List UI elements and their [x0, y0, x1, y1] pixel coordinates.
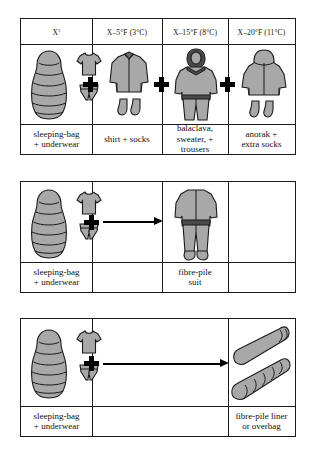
- implies-arrow: [103, 359, 229, 368]
- caption-line: fibre-pile liner: [235, 411, 287, 422]
- plus-operator-2: [154, 77, 169, 92]
- caption-line: + underwear: [34, 277, 80, 288]
- plus-operator-1: [84, 215, 99, 230]
- caption-cell-0: sleeping-bag + underwear: [21, 406, 92, 436]
- degree-symbol: °: [58, 29, 60, 35]
- figure-sheet: X° X–5°F (3°C) X–15°F (8°C) X–20°F (11°C…: [0, 0, 314, 455]
- layer-table-block-3: sleeping-bag + underwear fibre-pile line…: [20, 318, 296, 437]
- header-cell-2: X–15°F (8°C): [162, 19, 228, 45]
- socks-icon: [117, 97, 143, 117]
- plus-operator-1: [84, 356, 99, 371]
- caption-cell-1: shirt + socks: [92, 124, 162, 154]
- implies-arrow: [103, 217, 163, 226]
- caption-cell-2: balaclava, sweater, + trousers: [162, 124, 228, 154]
- caption-line: extra socks: [241, 139, 281, 150]
- anorak-icon: [241, 49, 287, 97]
- header-cell-1: X–5°F (3°C): [92, 19, 162, 45]
- header-cell-0: X°: [21, 19, 92, 45]
- sleeping-bag-icon: [26, 327, 72, 401]
- layer-table-block-1: X° X–5°F (3°C) X–15°F (8°C) X–20°F (11°C…: [20, 18, 296, 155]
- plus-operator-1: [83, 77, 98, 92]
- caption-cell-2: fibre-pile liner or overbag: [228, 406, 295, 436]
- caption-line: sleeping-bag: [34, 267, 80, 278]
- caption-cell-0: sleeping-bag + underwear: [21, 262, 92, 292]
- caption-line: or overbag: [235, 421, 287, 432]
- caption-line: anorak +: [241, 129, 281, 140]
- fibre-pile-suit-icon: [173, 188, 219, 262]
- t-shirt-icon: [76, 190, 102, 216]
- t-shirt-icon: [76, 329, 102, 355]
- caption-line: + underwear: [34, 421, 80, 432]
- sleeping-bag-icon: [26, 188, 72, 260]
- caption-cell-3: anorak + extra socks: [228, 124, 295, 154]
- header-cell-3: X–20°F (11°C): [228, 19, 295, 45]
- fibre-pile-overbag-icon: [229, 357, 295, 405]
- column-divider-3: [228, 182, 229, 292]
- caption-line: shirt + socks: [104, 134, 150, 145]
- caption-line: balaclava,: [177, 123, 214, 134]
- caption-line: trousers: [177, 144, 214, 155]
- caption-line: + underwear: [34, 139, 80, 150]
- plus-operator-3: [220, 77, 235, 92]
- shirt-icon: [109, 52, 149, 94]
- caption-line: fibre-pile: [178, 267, 211, 278]
- sleeping-bag-icon: [26, 49, 72, 121]
- extra-socks-icon: [249, 99, 277, 119]
- balaclava-figure-icon: [173, 48, 219, 122]
- caption-line: sleeping-bag: [34, 129, 80, 140]
- caption-line: sleeping-bag: [34, 411, 80, 422]
- caption-cell-2: fibre-pile suit: [162, 262, 228, 292]
- t-shirt-icon: [76, 51, 102, 77]
- layer-table-block-2: sleeping-bag + underwear fibre-pile suit: [20, 181, 296, 293]
- caption-line: sweater, +: [177, 134, 214, 145]
- caption-line: suit: [178, 277, 211, 288]
- caption-cell-0: sleeping-bag + underwear: [21, 124, 92, 154]
